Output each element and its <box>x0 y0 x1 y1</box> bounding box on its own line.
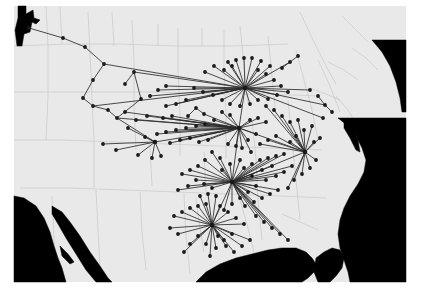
network-node[interactable] <box>296 118 300 122</box>
network-node[interactable] <box>222 68 226 72</box>
network-node[interactable] <box>300 172 304 176</box>
network-node[interactable] <box>280 66 284 70</box>
network-node[interactable] <box>106 108 110 112</box>
network-node[interactable] <box>197 140 201 144</box>
network-node[interactable] <box>203 158 207 162</box>
network-node[interactable] <box>249 150 253 154</box>
network-node[interactable] <box>208 254 212 258</box>
network-node[interactable] <box>182 250 186 254</box>
network-node[interactable] <box>123 110 127 114</box>
network-node[interactable] <box>115 116 119 120</box>
network-node[interactable] <box>259 59 263 63</box>
network-node[interactable] <box>226 142 230 146</box>
network-node[interactable] <box>280 114 284 118</box>
network-node[interactable] <box>214 246 218 250</box>
network-node[interactable] <box>250 162 254 166</box>
network-node[interactable] <box>102 62 106 66</box>
network-node[interactable] <box>176 188 180 192</box>
network-node[interactable] <box>91 104 95 108</box>
network-node[interactable] <box>258 142 262 146</box>
network-node[interactable] <box>126 126 130 130</box>
network-node[interactable] <box>202 182 206 186</box>
network-node[interactable] <box>274 154 278 158</box>
network-node[interactable] <box>145 114 149 118</box>
network-node[interactable] <box>282 152 286 156</box>
network-node[interactable] <box>136 153 140 157</box>
network-node[interactable] <box>268 64 272 68</box>
network-node[interactable] <box>318 136 322 140</box>
network-node[interactable] <box>168 141 172 145</box>
network-node[interactable] <box>243 204 247 208</box>
network-node[interactable] <box>214 194 218 198</box>
network-node[interactable] <box>286 90 290 94</box>
network-node[interactable] <box>188 206 192 210</box>
network-node[interactable] <box>161 116 165 120</box>
network-node[interactable] <box>274 174 278 178</box>
network-node[interactable] <box>294 134 298 138</box>
hub-houston[interactable] <box>210 223 214 227</box>
network-node[interactable] <box>288 60 292 64</box>
network-node[interactable] <box>256 98 260 102</box>
network-node[interactable] <box>308 88 312 92</box>
network-node[interactable] <box>198 194 202 198</box>
network-node[interactable] <box>248 118 252 122</box>
network-node[interactable] <box>234 216 238 220</box>
hub-dallas[interactable] <box>230 180 234 184</box>
network-node[interactable] <box>323 103 327 107</box>
network-node[interactable] <box>132 70 136 74</box>
network-node[interactable] <box>242 166 246 170</box>
network-node[interactable] <box>27 26 31 30</box>
network-node[interactable] <box>234 58 238 62</box>
network-node[interactable] <box>252 200 256 204</box>
network-node[interactable] <box>240 146 244 150</box>
hub-kansas-city[interactable] <box>237 126 241 130</box>
network-node[interactable] <box>238 104 242 108</box>
network-node[interactable] <box>218 156 222 160</box>
network-node[interactable] <box>232 250 236 254</box>
hub-denver[interactable] <box>153 140 157 144</box>
network-node[interactable] <box>266 97 270 101</box>
network-node[interactable] <box>310 124 314 128</box>
network-node[interactable] <box>83 45 87 49</box>
network-node[interactable] <box>174 102 178 106</box>
network-node[interactable] <box>186 184 190 188</box>
network-node[interactable] <box>156 88 160 92</box>
network-node[interactable] <box>288 140 292 144</box>
network-node[interactable] <box>123 82 127 86</box>
network-node[interactable] <box>260 168 264 172</box>
network-node[interactable] <box>226 210 230 214</box>
hub-atlanta[interactable] <box>303 150 307 154</box>
network-node[interactable] <box>296 54 300 58</box>
network-node[interactable] <box>254 132 258 136</box>
network-node[interactable] <box>254 184 258 188</box>
network-node[interactable] <box>170 114 174 118</box>
network-node[interactable] <box>196 234 200 238</box>
network-node[interactable] <box>139 97 143 101</box>
network-node[interactable] <box>250 56 254 60</box>
network-node[interactable] <box>226 60 230 64</box>
network-node[interactable] <box>202 112 206 116</box>
network-node[interactable] <box>270 226 274 230</box>
network-node[interactable] <box>262 220 266 224</box>
network-node[interactable] <box>203 70 207 74</box>
network-node[interactable] <box>234 144 238 148</box>
network-node[interactable] <box>61 36 65 40</box>
network-node[interactable] <box>279 84 283 88</box>
network-node[interactable] <box>101 142 105 146</box>
network-node[interactable] <box>216 234 220 238</box>
network-node[interactable] <box>256 116 260 120</box>
network-node[interactable] <box>178 138 182 142</box>
network-node[interactable] <box>270 164 274 168</box>
network-node[interactable] <box>264 178 268 182</box>
network-node[interactable] <box>159 154 163 158</box>
network-node[interactable] <box>148 94 152 98</box>
network-node[interactable] <box>188 242 192 246</box>
network-node[interactable] <box>196 204 200 208</box>
network-node[interactable] <box>224 244 228 248</box>
network-node[interactable] <box>276 188 280 192</box>
network-node[interactable] <box>210 150 214 154</box>
network-node[interactable] <box>321 116 325 120</box>
network-node[interactable] <box>134 118 138 122</box>
network-node[interactable] <box>211 93 215 97</box>
network-node[interactable] <box>194 178 198 182</box>
